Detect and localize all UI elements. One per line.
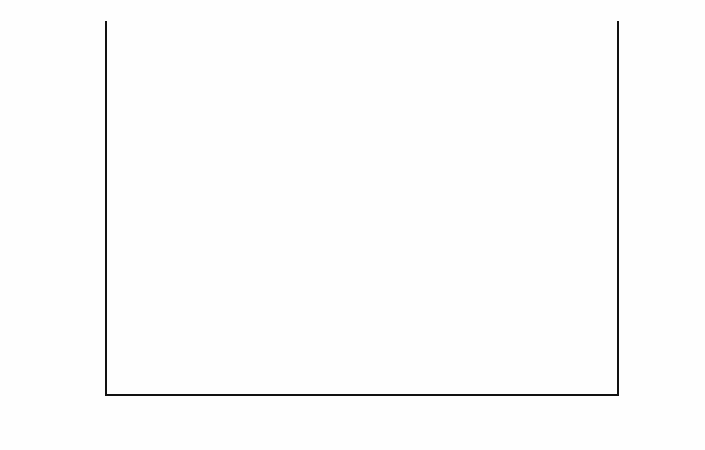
axis-spine-left [105,21,107,395]
incidence-rate-line [106,22,618,394]
plot-area [106,22,618,394]
axis-spine-bottom [105,394,619,396]
axis-spine-right [617,21,619,395]
chart-figure [0,0,705,450]
